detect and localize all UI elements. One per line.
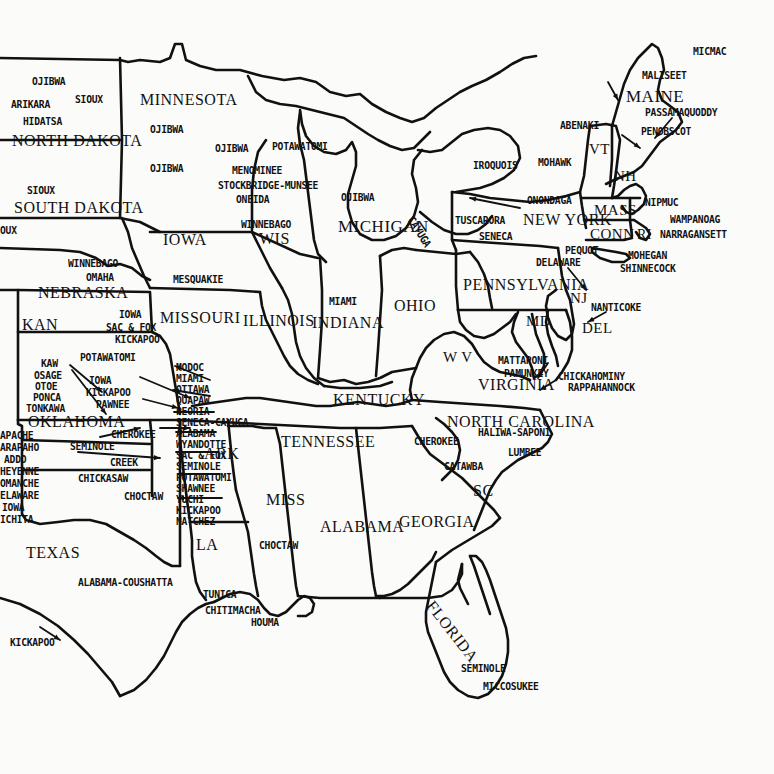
tribe-label-mohegan: MOHEGAN xyxy=(628,250,667,261)
tribe-label-cherokee: CHEROKEE xyxy=(414,436,459,447)
mn-ia-west xyxy=(122,218,150,288)
tribe-label-potawatomi: POTAWATOMI xyxy=(80,352,136,363)
tribe-label-maliseet: MALISEET xyxy=(642,70,687,81)
tribe-label-houma: HOUMA xyxy=(251,617,279,628)
tribe-label-ichita: ICHITA xyxy=(0,514,33,525)
pa-west xyxy=(456,250,458,310)
tribe-label-pawnee: PAWNEE xyxy=(96,399,129,410)
state-label-north-dakota: NORTH DAKOTA xyxy=(12,133,142,149)
fl-inner xyxy=(470,556,490,614)
state-label-ri: RI xyxy=(637,228,652,242)
tribe-label-kickapoo: KICKAPOO xyxy=(115,334,160,345)
state-label-kan: KAN xyxy=(22,317,58,333)
tribe-label-hidatsa: HIDATSA xyxy=(23,116,62,127)
tribe-label-kaw: KAW xyxy=(41,358,58,369)
leader-arrowhead-12 xyxy=(154,455,160,460)
tribe-label-omaha: OMAHA xyxy=(86,272,114,283)
tribe-label-onondaga: ONONDAGA xyxy=(527,195,572,206)
state-label-indiana: INDIANA xyxy=(312,315,384,331)
tribe-label-nanticoke: NANTICOKE xyxy=(591,302,641,313)
tribe-label-iowa: IOWA xyxy=(119,309,141,320)
tribe-label-haliwa-saponi: HALIWA-SAPONI xyxy=(478,427,550,438)
tribe-label-miami: MIAMI xyxy=(329,296,357,307)
tribe-label-wampanoag: WAMPANOAG xyxy=(670,214,720,225)
state-label-nh: NH xyxy=(614,169,637,184)
state-label-w-v: W V xyxy=(443,350,473,365)
tribe-label-ojibwa: OJIBWA xyxy=(150,163,183,174)
state-label-ohio: OHIO xyxy=(394,298,436,314)
state-label-sc: SC xyxy=(473,483,494,499)
state-label-alabama: ALABAMA xyxy=(320,519,404,535)
ia-mo-border xyxy=(150,288,260,292)
tribe-label-passamaquoddy: PASSAMAQUODDY xyxy=(645,107,717,118)
tribe-label-winnebago: WINNEBAGO xyxy=(241,219,291,230)
tribe-label-iowa: IOWA xyxy=(2,502,24,513)
tribe-label-sac-and-fox: SAC & FOX xyxy=(106,322,156,333)
tribe-label-ojibwa: OJIBWA xyxy=(341,192,374,203)
tribe-label-ojibwa: OJIBWA xyxy=(150,124,183,135)
ga-south xyxy=(376,552,436,596)
tribes-map: MINNESOTANORTH DAKOTASOUTH DAKOTAIOWAWIS… xyxy=(0,0,774,774)
tribe-label-winnebago: WINNEBAGO xyxy=(68,258,118,269)
tribe-label-oneida: ONEIDA xyxy=(236,194,269,205)
state-label-vt: VT xyxy=(589,142,610,157)
state-label-conn: CONN xyxy=(590,227,635,242)
state-label-kentucky: KENTUCKY xyxy=(333,392,425,408)
tribe-label-kickapoo: KICKAPOO xyxy=(86,387,131,398)
vt-nh-border xyxy=(610,126,612,186)
tribe-label-addo: ADDO xyxy=(4,454,26,465)
tribe-label-miccosukee: MICCOSUKEE xyxy=(483,681,539,692)
tribe-label-nipmuc: NIPMUC xyxy=(645,197,678,208)
tribe-label-tunica: TUNICA xyxy=(203,589,236,600)
state-label-iowa: IOWA xyxy=(163,232,207,248)
state-label-minnesota: MINNESOTA xyxy=(140,92,237,108)
lake-superior xyxy=(248,76,430,150)
tribe-label-stockbridge-munsee: STOCKBRIDGE-MUNSEE xyxy=(218,180,318,191)
state-label-illinois: ILLINOIS xyxy=(243,313,315,329)
ms-west xyxy=(236,490,258,596)
state-label-tennessee: TENNESSEE xyxy=(281,434,375,450)
canada-border-west xyxy=(0,44,536,122)
tribe-label-narragansett: NARRAGANSETT xyxy=(660,229,727,240)
tribe-label-seminole: SEMINOLE xyxy=(461,663,506,674)
tribe-label-chitimacha: CHITIMACHA xyxy=(205,605,261,616)
md-panhandle xyxy=(458,310,516,338)
tribe-label-choctaw: CHOCTAW xyxy=(259,540,298,551)
tribe-label-pequot: PEQUOT xyxy=(565,245,598,256)
vt-nh-west xyxy=(590,124,620,198)
state-label-georgia: GEORGIA xyxy=(399,514,475,530)
tribe-label-seneca: SENECA xyxy=(479,231,512,242)
tribe-label-choctaw: CHOCTAW xyxy=(124,491,163,502)
tribe-label-apache: APACHE xyxy=(0,430,33,441)
tribe-label-mohawk: MOHAWK xyxy=(538,157,571,168)
state-label-miss: MISS xyxy=(266,492,305,508)
state-label-la: LA xyxy=(196,537,218,553)
tribe-label-oux: OUX xyxy=(0,225,17,236)
tribe-label-sioux: SIOUX xyxy=(27,185,55,196)
tribe-label-tuscarora: TUSCARORA xyxy=(455,215,505,226)
state-label-texas: TEXAS xyxy=(26,545,80,561)
tribe-label-pamunkey: PAMUNKEY xyxy=(504,368,549,379)
tribe-label-rappahannock: RAPPAHANNOCK xyxy=(568,382,635,393)
tribe-label-abenaki: ABENAKI xyxy=(560,120,599,131)
tribe-label-iowa: IOWA xyxy=(89,375,111,386)
tribe-label-delaware: DELAWARE xyxy=(536,257,581,268)
tribe-label-catawba: CATAWBA xyxy=(444,461,483,472)
tribe-label-iroquois: IROQUOIS xyxy=(473,160,518,171)
state-label-nebraska: NEBRASKA xyxy=(38,285,128,301)
tribe-label-chickasaw: CHICKASAW xyxy=(78,473,128,484)
tribe-label-potawatomi: POTAWATOMI xyxy=(272,141,328,152)
in-north xyxy=(380,248,416,256)
tribe-label-ojibwa: OJIBWA xyxy=(215,143,248,154)
tribe-label-alabama-coushatta: ALABAMA-COUSHATTA xyxy=(78,577,173,588)
tribe-label-micmac: MICMAC xyxy=(693,46,726,57)
sd-ne-border xyxy=(0,218,160,232)
ne-ks-west xyxy=(0,290,18,420)
tribe-label-creek: CREEK xyxy=(110,457,138,468)
gulf-coast-west xyxy=(120,602,214,696)
tribe-label-mesquakie: MESQUAKIE xyxy=(173,274,223,285)
tribe-label-ojibwa: OJIBWA xyxy=(32,76,65,87)
state-label-md: MD xyxy=(526,314,551,329)
tribe-label-menominee: MENOMINEE xyxy=(232,165,282,176)
tribe-label-sioux: SIOUX xyxy=(75,94,103,105)
